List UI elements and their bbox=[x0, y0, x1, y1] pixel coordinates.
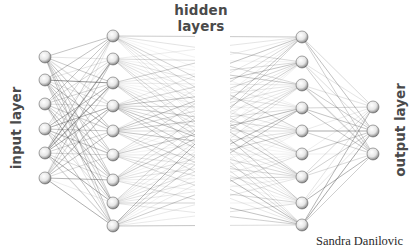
hidden-2-node bbox=[296, 171, 308, 183]
hidden-2-node bbox=[296, 31, 308, 43]
connection-line bbox=[230, 61, 302, 62]
connection-line bbox=[230, 171, 302, 225]
hidden-layers-label: hidden layers bbox=[150, 2, 252, 34]
connection-line bbox=[113, 36, 195, 77]
output-node bbox=[367, 148, 379, 160]
connection-line bbox=[113, 83, 195, 104]
connection-line bbox=[113, 36, 195, 67]
connection-line bbox=[113, 159, 195, 180]
hidden-1-node bbox=[107, 100, 119, 112]
connection-line bbox=[113, 59, 195, 60]
hidden-2-node bbox=[296, 125, 308, 137]
input-node bbox=[39, 147, 51, 159]
hidden-1-node bbox=[107, 53, 119, 65]
connection-line bbox=[113, 36, 195, 47]
connection-line bbox=[113, 59, 195, 90]
connection-line bbox=[230, 37, 302, 55]
connection-line bbox=[230, 208, 302, 225]
input-layer-label: input layer bbox=[8, 76, 24, 180]
connection-line bbox=[113, 172, 195, 203]
connection-line bbox=[113, 192, 195, 203]
hidden-1-node bbox=[107, 77, 119, 89]
connection-lines bbox=[45, 36, 373, 226]
hidden-1-node bbox=[107, 149, 119, 161]
connection-line bbox=[302, 107, 373, 108]
hidden-2-node bbox=[296, 219, 308, 231]
hidden-1-node bbox=[107, 174, 119, 186]
neural-network-diagram bbox=[0, 0, 411, 251]
connection-line bbox=[113, 179, 195, 180]
connection-line bbox=[113, 131, 195, 151]
connection-line bbox=[302, 131, 373, 225]
hidden-1-node bbox=[107, 220, 119, 232]
connection-line bbox=[230, 177, 302, 187]
connection-line bbox=[230, 52, 302, 62]
input-node bbox=[39, 123, 51, 135]
input-node bbox=[39, 74, 51, 86]
hidden-1-node bbox=[107, 30, 119, 42]
input-node bbox=[39, 98, 51, 110]
connection-line bbox=[113, 74, 195, 83]
input-node bbox=[39, 172, 51, 184]
hidden-1-node bbox=[107, 125, 119, 137]
hidden-2-node bbox=[296, 79, 308, 91]
hidden-2-node bbox=[296, 148, 308, 160]
connection-line bbox=[302, 62, 373, 107]
input-node bbox=[39, 51, 51, 63]
author-credit: Sandra Danilovic bbox=[316, 234, 403, 249]
connection-line bbox=[302, 107, 373, 203]
output-layer-label: output layer bbox=[392, 78, 408, 182]
hidden-2-node bbox=[296, 56, 308, 68]
connection-line bbox=[113, 63, 195, 83]
hidden-2-node bbox=[296, 102, 308, 114]
output-node bbox=[367, 101, 379, 113]
hidden-2-node bbox=[296, 197, 308, 209]
connection-line bbox=[302, 154, 373, 225]
connection-line bbox=[230, 159, 302, 177]
output-node bbox=[367, 125, 379, 137]
connection-line bbox=[113, 83, 195, 84]
hidden-1-node bbox=[107, 197, 119, 209]
connection-line bbox=[113, 195, 195, 226]
